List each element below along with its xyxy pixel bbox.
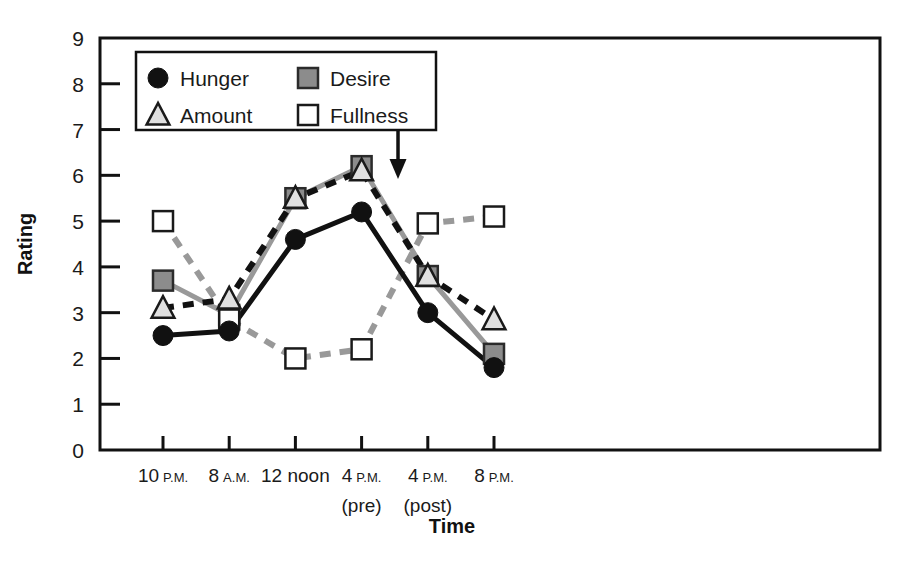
legend-label: Hunger [180,67,249,90]
data-point-fullness-2 [285,348,305,368]
y-tick-label: 8 [72,73,84,96]
rating-vs-time-line-chart: 0123456789 10P.M.8A.M.12 noon4P.M.(pre)4… [0,0,918,573]
y-tick-label: 6 [72,164,84,187]
legend-label: Fullness [330,104,408,127]
data-point-fullness-3 [352,339,372,359]
data-point-hunger-5 [484,358,504,378]
data-point-fullness-0 [153,211,173,231]
legend-marker-fullness [298,105,318,125]
y-tick-label: 0 [72,439,84,462]
data-point-fullness-4 [418,213,438,233]
data-point-hunger-3 [352,202,372,222]
legend: HungerDesireAmountFullness [136,52,436,130]
x-tick-sublabel: (pre) [342,495,382,516]
y-axis-title: Rating [14,213,36,275]
x-tick-sublabel: (post) [404,495,453,516]
data-point-fullness-5 [484,207,504,227]
data-point-desire-0 [153,271,173,291]
legend-entry-fullness: Fullness [298,104,408,127]
legend-marker-hunger [148,68,168,88]
data-point-hunger-2 [285,229,305,249]
legend-label: Desire [330,67,391,90]
y-tick-label: 2 [72,347,84,370]
y-tick-label: 4 [72,256,84,279]
data-point-hunger-4 [418,303,438,323]
y-tick-label: 1 [72,393,84,416]
x-tick-label: 12 noon [261,465,330,486]
legend-label: Amount [180,104,253,127]
x-axis-title: Time [429,515,475,537]
y-tick-label: 5 [72,210,84,233]
y-tick-label: 3 [72,302,84,325]
y-tick-label: 9 [72,27,84,50]
data-point-hunger-1 [219,321,239,341]
legend-entry-hunger: Hunger [148,67,249,90]
data-point-hunger-0 [153,326,173,346]
y-tick-label: 7 [72,119,84,142]
legend-marker-desire [298,68,318,88]
legend-entry-desire: Desire [298,67,391,90]
